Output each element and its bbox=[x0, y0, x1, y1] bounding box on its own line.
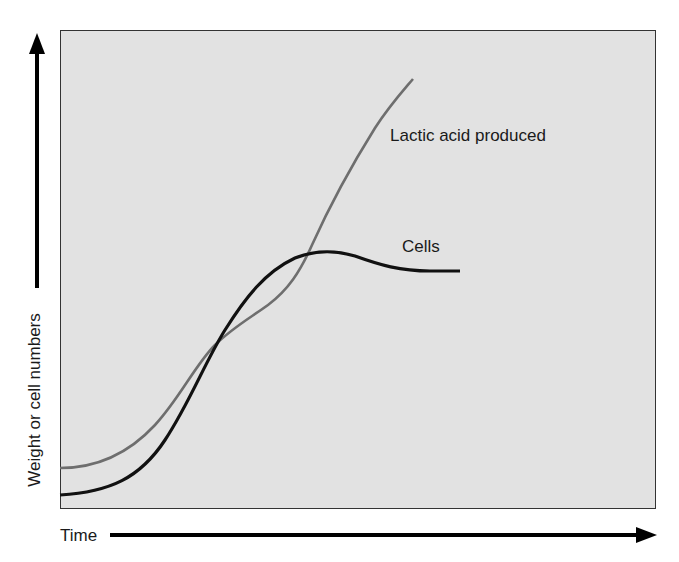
cells-curve bbox=[60, 252, 460, 495]
lactic-acid-label: Lactic acid produced bbox=[390, 126, 546, 146]
x-axis-label: Time bbox=[60, 526, 97, 546]
x-axis-arrow-icon bbox=[110, 527, 657, 543]
cells-label: Cells bbox=[402, 237, 440, 257]
lactic-acid-curve bbox=[60, 79, 413, 468]
chart-curves bbox=[0, 0, 679, 562]
y-axis-label: Weight or cell numbers bbox=[25, 313, 45, 487]
y-axis-arrow-icon bbox=[29, 33, 45, 288]
growth-curve-figure: Lactic acid produced Cells Weight or cel… bbox=[0, 0, 679, 562]
